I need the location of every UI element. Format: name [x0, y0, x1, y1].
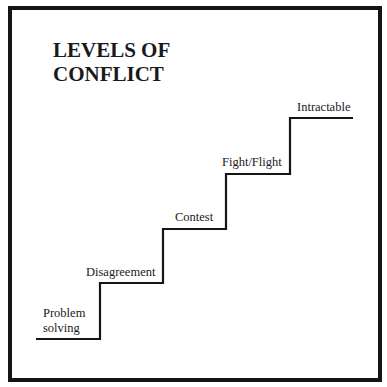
step-label-contest: Contest: [175, 210, 213, 225]
step-label-line-2: solving: [43, 321, 85, 336]
step-label-disagreement: Disagreement: [86, 265, 155, 280]
step-label-problem-solving: Problem solving: [43, 306, 85, 336]
step-label-line-1: Problem: [43, 306, 85, 321]
step-label-intractable: Intractable: [297, 100, 350, 115]
step-label-fight-flight: Fight/Flight: [222, 155, 282, 170]
